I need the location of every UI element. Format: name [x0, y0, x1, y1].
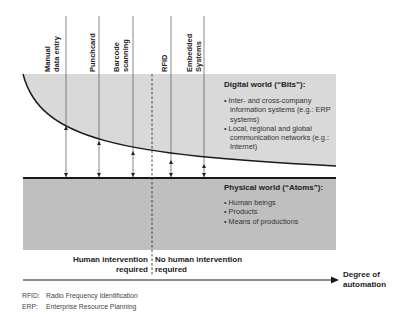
- bullet-item: • Products: [224, 207, 334, 216]
- label-line: automation: [343, 280, 386, 290]
- tech-label-rfid: RFID: [161, 55, 170, 73]
- physical-world-bullets: • Human beings • Products • Means of pro…: [224, 198, 334, 226]
- digital-world-text: Digital world (“Bits”): • Inter- and cro…: [224, 80, 334, 152]
- footnote-abbr: ERP:: [22, 301, 46, 312]
- footnote-text: Enterprise Resource Planning: [46, 303, 136, 310]
- footnote-rfid: RFID:Radio Frequency Identification: [22, 290, 138, 301]
- axis-arrowhead-icon: [331, 277, 339, 284]
- label-line: No human intervention: [155, 255, 242, 265]
- bullet-item: • Local, regional and global communicati…: [224, 124, 334, 152]
- label-line: Human intervention: [73, 255, 148, 265]
- tech-label-line: scanning: [122, 39, 131, 72]
- bullet-item: • Human beings: [224, 198, 334, 207]
- tech-label-barcode: Barcode scanning: [113, 39, 130, 72]
- tech-label-manual: Manual data entry: [44, 36, 61, 72]
- footnote-abbr: RFID:: [22, 290, 46, 301]
- physical-world-title: Physical world (“Atoms”):: [224, 183, 334, 192]
- footnotes: RFID:Radio Frequency Identification ERP:…: [22, 290, 138, 312]
- bullet-item: • Means of productions: [224, 217, 334, 226]
- digital-world-title: Digital world (“Bits”):: [224, 80, 334, 89]
- axis-label: Degree of automation: [343, 270, 386, 290]
- label-line: required: [73, 265, 148, 275]
- tech-label-punchcard: Punchcard: [89, 33, 98, 72]
- bullet-item: • Inter- and cross-company information s…: [224, 96, 334, 124]
- no-human-intervention-label: No human intervention required: [155, 255, 242, 275]
- tech-label-embedded: Embedded Systems: [186, 34, 203, 72]
- label-line: required: [155, 265, 242, 275]
- tech-label-line: data entry: [53, 36, 62, 72]
- tech-label-line: Systems: [195, 34, 204, 72]
- label-line: Degree of: [343, 270, 386, 280]
- tech-label-line: Punchcard: [89, 33, 98, 72]
- tech-label-line: RFID: [161, 55, 170, 73]
- footnote-text: Radio Frequency Identification: [46, 292, 138, 299]
- digital-world-bullets: • Inter- and cross-company information s…: [224, 96, 334, 152]
- footnote-erp: ERP:Enterprise Resource Planning: [22, 301, 138, 312]
- human-intervention-label: Human intervention required: [73, 255, 148, 275]
- physical-world-text: Physical world (“Atoms”): • Human beings…: [224, 183, 334, 226]
